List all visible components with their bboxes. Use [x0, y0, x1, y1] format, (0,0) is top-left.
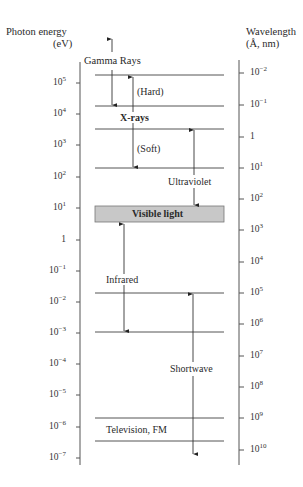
tick-label: 102	[250, 193, 263, 203]
boundary-lines	[95, 75, 224, 441]
tick-label: 105	[250, 287, 263, 297]
tick-label: 1	[26, 234, 66, 244]
tick-label: 10−7	[26, 452, 66, 462]
tick-label: 108	[250, 381, 263, 391]
left-axis-unit: (eV)	[53, 38, 72, 49]
tick-label: 105	[26, 77, 66, 87]
left-axis-title: Photon energy	[6, 26, 67, 37]
label-hard: (Hard)	[137, 86, 164, 97]
tick-label: 10−3	[26, 327, 66, 337]
tick-label: 10−5	[26, 389, 66, 399]
tick-label: 103	[26, 139, 66, 149]
label-gamma-rays: Gamma Rays	[83, 55, 142, 66]
range-arrows	[112, 39, 194, 454]
label-television-fm: Television, FM	[106, 424, 167, 435]
tick-label: 104	[26, 108, 66, 118]
label-infrared: Infrared	[106, 274, 138, 285]
tick-label: 103	[250, 224, 263, 234]
left-axis	[76, 62, 80, 465]
label-soft: (Soft)	[137, 143, 160, 154]
tick-label: 10−1	[250, 99, 267, 109]
label-ultraviolet: Ultraviolet	[168, 176, 211, 187]
right-axis-title: Wavelength	[246, 26, 296, 37]
tick-label: 104	[250, 256, 263, 266]
tick-label: 10−6	[26, 421, 66, 431]
tick-label: 101	[250, 162, 263, 172]
right-axis	[239, 60, 244, 465]
right-axis-unit: (Å, nm)	[246, 38, 279, 49]
tick-label: 107	[250, 350, 263, 360]
label-shortwave: Shortwave	[170, 363, 213, 374]
label-x-rays: X-rays	[119, 112, 150, 123]
tick-label: 10−2	[26, 296, 66, 306]
tick-label: 109	[250, 412, 263, 422]
tick-label: 102	[26, 171, 66, 181]
tick-label: 10−4	[26, 358, 66, 368]
tick-label: 101	[26, 202, 66, 212]
label-visible-light: Visible light	[132, 208, 183, 219]
tick-label: 1	[250, 131, 255, 141]
tick-label: 1010	[250, 444, 267, 454]
tick-label: 10−2	[250, 67, 267, 77]
tick-label: 10−1	[26, 265, 66, 275]
tick-label: 106	[250, 318, 263, 328]
